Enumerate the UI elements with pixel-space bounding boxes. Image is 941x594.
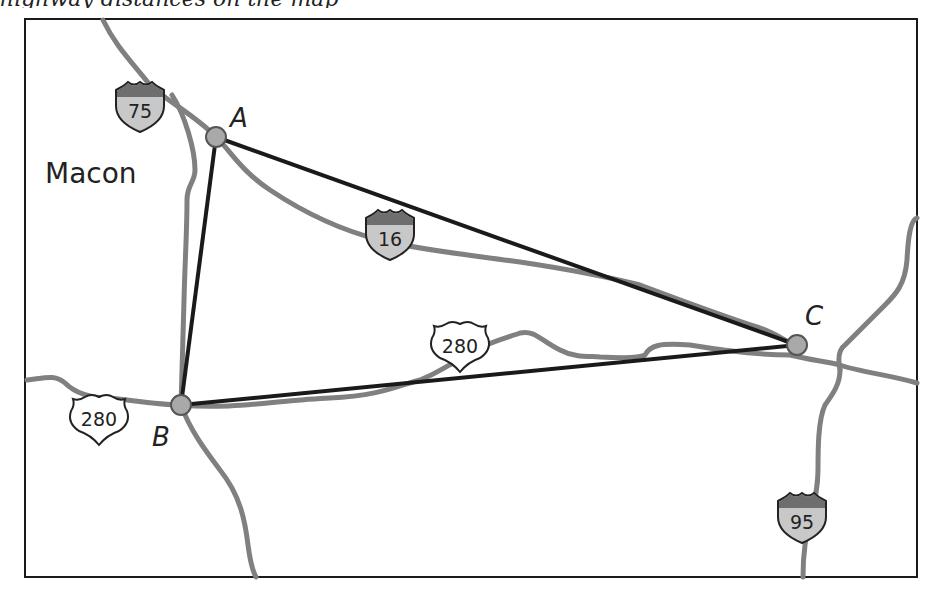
point-c-label: C <box>805 301 824 331</box>
road-south-b <box>181 405 256 577</box>
svg-text:16: 16 <box>378 228 402 250</box>
road-northeast <box>839 218 917 370</box>
map: A B C Macon 75 16 95 280 280 <box>0 0 941 594</box>
point-a <box>206 127 226 147</box>
point-b <box>171 395 191 415</box>
svg-text:280: 280 <box>442 335 478 357</box>
point-c <box>787 335 807 355</box>
interstate-shield-75: 75 <box>116 82 164 132</box>
us-route-shield-280-west: 280 <box>70 395 128 445</box>
interstate-shield-95: 95 <box>778 493 826 543</box>
road-i95 <box>803 370 840 577</box>
triangle <box>181 137 797 405</box>
svg-text:95: 95 <box>790 511 814 533</box>
us-route-shield-280-east: 280 <box>431 322 489 372</box>
edge-b-c <box>181 345 797 405</box>
city-label-macon: Macon <box>45 157 137 190</box>
svg-text:75: 75 <box>128 100 152 122</box>
road-west-ns <box>172 95 195 405</box>
point-a-label: A <box>228 103 248 133</box>
svg-text:280: 280 <box>81 408 117 430</box>
point-b-label: B <box>152 422 170 452</box>
interstate-shield-16: 16 <box>366 210 414 260</box>
edge-a-c <box>216 137 797 345</box>
